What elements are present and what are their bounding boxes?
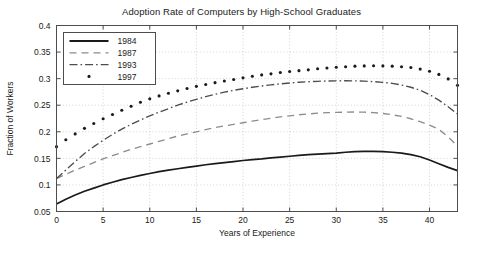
series-line-1984: [57, 151, 458, 204]
y-tick-label: 0.1: [39, 180, 51, 190]
x-axis-title: Years of Experience: [219, 228, 295, 238]
chart-figure: Adoption Rate of Computers by High-Schoo…: [0, 0, 483, 253]
y-tick-label: 0.35: [34, 47, 51, 57]
x-tick-label: 10: [145, 215, 155, 225]
y-axis-title: Fraction of Workers: [5, 81, 15, 155]
legend-label-1997: 1997: [118, 72, 137, 82]
y-tick-label: 0.4: [39, 21, 51, 31]
legend-label-1993: 1993: [118, 60, 137, 70]
series-line-1987: [57, 112, 458, 179]
y-tick-label: 0.25: [34, 100, 51, 110]
y-tick-label: 0.15: [34, 154, 51, 164]
plot-canvas: 05101520253035400.050.10.150.20.250.30.3…: [0, 0, 483, 253]
legend: 1984198719931997: [64, 33, 156, 85]
x-tick-label: 35: [378, 215, 388, 225]
x-tick-label: 5: [101, 215, 106, 225]
legend-label-1984: 1984: [118, 36, 137, 46]
y-tick-label: 0.2: [39, 127, 51, 137]
legend-label-1987: 1987: [118, 48, 137, 58]
x-tick-label: 25: [285, 215, 295, 225]
x-tick-label: 15: [192, 215, 202, 225]
y-tick-label: 0.3: [39, 74, 51, 84]
x-tick-label: 30: [332, 215, 342, 225]
x-tick-label: 20: [238, 215, 248, 225]
x-tick-label: 0: [54, 215, 59, 225]
x-tick-label: 40: [425, 215, 435, 225]
legend-marker-1997: [87, 75, 90, 78]
series-line-1993: [57, 81, 458, 179]
series-lines: [55, 64, 459, 204]
y-tick-label: 0.05: [34, 207, 51, 217]
